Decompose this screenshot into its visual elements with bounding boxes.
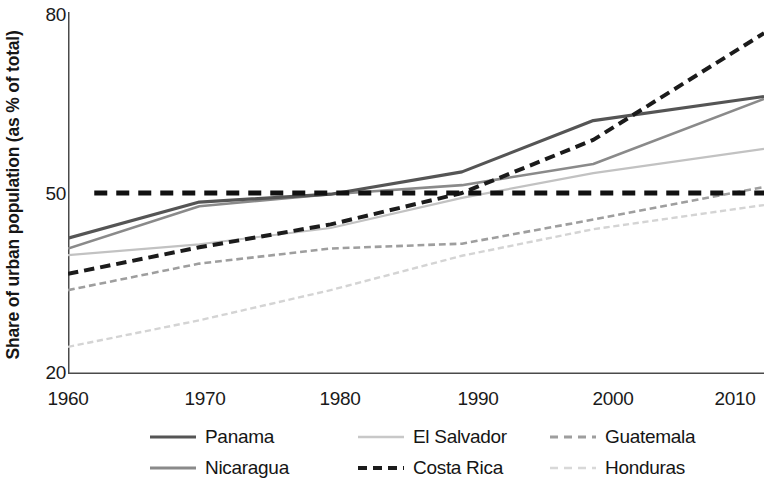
- legend-item-guatemala: Guatemala: [550, 421, 695, 452]
- black-dashed-line-swatch: [358, 461, 404, 475]
- series-line-guatemala: [68, 187, 764, 290]
- legend-label: El Salvador: [413, 426, 507, 448]
- series-line-nicaragua: [68, 99, 764, 249]
- plot-area: [68, 12, 764, 374]
- legend-label: Honduras: [605, 457, 685, 479]
- urbanization-line-chart: Share of urban population (as % of total…: [0, 0, 764, 483]
- legend-label: Costa Rica: [413, 457, 503, 479]
- plot-svg: [68, 12, 764, 374]
- y-axis-title-text: Share of urban population (as % of total…: [3, 30, 24, 359]
- gray-solid-line-swatch: [150, 461, 196, 475]
- chart-legend: Panama El Salvador Guatemala Nicaragua C…: [150, 421, 760, 483]
- x-tick-label-2010: 2010: [700, 388, 764, 410]
- legend-item-costa-rica: Costa Rica: [358, 452, 503, 483]
- x-tick-label-1970: 1970: [170, 388, 240, 410]
- series-line-el-salvador: [68, 149, 764, 255]
- x-tick-label-1960: 1960: [33, 388, 103, 410]
- y-tick-label-80: 80: [26, 4, 66, 26]
- legend-item-el-salvador: El Salvador: [358, 421, 507, 452]
- legend-item-honduras: Honduras: [550, 452, 685, 483]
- gray-dashed-line-swatch: [550, 430, 596, 444]
- light-solid-line-swatch: [358, 430, 404, 444]
- x-tick-label-2000: 2000: [578, 388, 648, 410]
- legend-row: Panama El Salvador Guatemala: [150, 421, 760, 452]
- y-axis-title: Share of urban population (as % of total…: [0, 0, 26, 390]
- series-line-panama: [68, 96, 764, 238]
- legend-item-nicaragua: Nicaragua: [150, 452, 289, 483]
- legend-row: Nicaragua Costa Rica Honduras: [150, 452, 760, 483]
- series-line-costa-rica: [68, 33, 764, 274]
- solid-line-swatch: [150, 430, 196, 444]
- y-tick-label-20: 20: [26, 362, 66, 384]
- x-tick-label-1980: 1980: [305, 388, 375, 410]
- legend-label: Panama: [205, 426, 274, 448]
- y-tick-label-50: 50: [26, 183, 66, 205]
- legend-label: Guatemala: [605, 426, 695, 448]
- legend-item-panama: Panama: [150, 421, 274, 452]
- x-tick-label-1990: 1990: [443, 388, 513, 410]
- light-dashed-line-swatch: [550, 461, 596, 475]
- legend-label: Nicaragua: [205, 457, 289, 479]
- series-line-honduras: [68, 205, 764, 347]
